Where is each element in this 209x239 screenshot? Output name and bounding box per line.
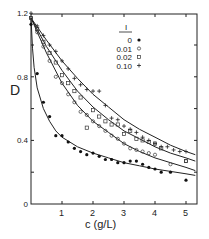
- data-point: [85, 126, 88, 129]
- data-point: [165, 145, 169, 149]
- x-tick-label: 4: [152, 208, 157, 218]
- y-tick-label: 0.4: [17, 136, 29, 145]
- data-point: [169, 171, 172, 174]
- axis-labels: D c (g/L) I: [10, 23, 127, 230]
- fit-curve: [31, 18, 195, 171]
- data-point: [184, 179, 187, 182]
- data-point: [137, 38, 140, 41]
- x-tick-label: 3: [121, 208, 126, 218]
- x-tick-label: 5: [183, 208, 188, 218]
- data-point: [85, 88, 89, 92]
- fit-curves: [31, 18, 195, 175]
- data-point: [129, 159, 132, 162]
- data-point: [29, 11, 33, 15]
- data-point: [103, 103, 107, 107]
- data-point: [73, 147, 76, 150]
- fit-curve: [31, 18, 195, 175]
- data-point: [137, 64, 141, 68]
- y-axis-label: D: [10, 82, 20, 98]
- data-point: [184, 159, 187, 162]
- data-point: [153, 153, 156, 156]
- y-tick-label: 0: [24, 200, 29, 209]
- legend: 00.010.020.10: [116, 32, 141, 71]
- data-point: [160, 171, 163, 174]
- data-points: [29, 11, 188, 182]
- data-point: [91, 109, 94, 112]
- data-point: [147, 152, 150, 155]
- data-point: [79, 96, 82, 99]
- data-point: [67, 82, 70, 85]
- data-point: [147, 166, 150, 169]
- x-tick-label: 2: [90, 208, 95, 218]
- legend-title: I: [125, 23, 127, 32]
- data-point: [98, 115, 101, 118]
- data-point: [135, 159, 138, 162]
- data-point: [122, 124, 126, 128]
- fit-curve: [31, 18, 195, 161]
- data-point: [122, 132, 125, 135]
- y-tick-label: 0.8: [17, 73, 29, 82]
- data-point: [137, 47, 140, 50]
- data-point: [60, 134, 63, 137]
- data-point: [60, 74, 63, 77]
- data-point: [48, 115, 51, 118]
- data-point: [66, 67, 70, 71]
- data-point: [104, 120, 107, 123]
- data-point: [110, 116, 114, 120]
- data-point: [91, 152, 94, 155]
- chart: 1234500.40.81.2 D c (g/L) I 00.010.020.1…: [0, 0, 209, 239]
- data-point: [104, 158, 107, 161]
- data-point: [97, 89, 101, 93]
- data-point: [110, 123, 113, 126]
- x-axis-label: c (g/L): [85, 218, 116, 230]
- data-point: [122, 161, 125, 164]
- data-point: [116, 161, 119, 164]
- chart-svg: 1234500.40.81.2 D c (g/L) I 00.010.020.1…: [0, 0, 209, 239]
- data-point: [184, 150, 188, 154]
- data-point: [73, 90, 76, 93]
- data-point: [67, 140, 70, 143]
- data-point: [134, 130, 138, 134]
- data-point: [116, 118, 120, 122]
- data-point: [172, 148, 176, 152]
- data-point: [153, 167, 156, 170]
- data-point: [141, 163, 144, 166]
- data-point: [137, 55, 140, 58]
- data-point: [110, 158, 113, 161]
- data-point: [85, 153, 88, 156]
- data-point: [79, 150, 82, 153]
- data-point: [36, 72, 39, 75]
- plot-border: [31, 14, 197, 204]
- data-point: [54, 75, 57, 78]
- y-tick-label: 1.2: [17, 9, 29, 18]
- data-point: [98, 155, 101, 158]
- data-point: [79, 110, 82, 113]
- data-point: [42, 101, 45, 104]
- x-tick-label: 1: [59, 208, 64, 218]
- data-point: [29, 23, 32, 26]
- legend-entry-label: 0.10: [116, 62, 132, 71]
- data-point: [178, 150, 182, 154]
- data-point: [54, 134, 57, 137]
